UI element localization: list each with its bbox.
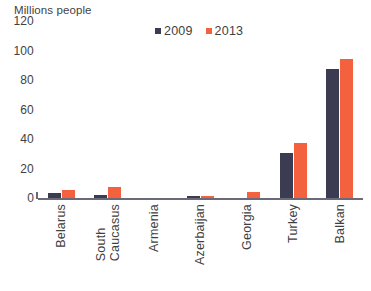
x-tick-label: Balkan [333, 204, 347, 243]
y-tick-label: 40 [2, 133, 34, 145]
x-tick-label: Azerbaijan [193, 204, 207, 265]
bar[interactable] [294, 143, 307, 199]
bar[interactable] [326, 69, 339, 199]
x-label-cell: SouthCaucasus [84, 202, 130, 291]
x-tick-label: SouthCaucasus [94, 204, 122, 261]
bar-group [177, 22, 223, 199]
bar[interactable] [340, 59, 353, 199]
x-label-cell: Balkan [317, 202, 363, 291]
x-tick-label-line: Caucasus [108, 204, 122, 261]
y-axis-origin-tick [36, 192, 38, 199]
y-tick-label: 60 [2, 104, 34, 116]
x-label-cell: Turkey [270, 202, 316, 291]
x-label-cell: Georgia [224, 202, 270, 291]
x-axis-labels: BelarusSouthCaucasusArmeniaAzerbaijanGeo… [38, 202, 363, 291]
x-label-cell: Armenia [131, 202, 177, 291]
x-tick-label: Georgia [240, 204, 254, 250]
bar[interactable] [280, 153, 293, 199]
y-tick-label: 120 [2, 15, 34, 27]
bar-group [38, 22, 84, 199]
x-tick-label: Armenia [147, 204, 161, 252]
y-tick-label: 100 [2, 45, 34, 57]
x-axis-line [38, 198, 363, 200]
x-tick-label: Belarus [54, 204, 68, 248]
bar-group [224, 22, 270, 199]
x-label-cell: Belarus [38, 202, 84, 291]
y-axis-labels: 020406080100120 [0, 0, 34, 220]
y-tick-label: 80 [2, 74, 34, 86]
bar-group [270, 22, 316, 199]
bar-group [317, 22, 363, 199]
y-tick-label: 20 [2, 163, 34, 175]
bar-groups [38, 22, 363, 199]
x-tick-label: Turkey [286, 204, 300, 243]
x-label-cell: Azerbaijan [177, 202, 223, 291]
bar-group [131, 22, 177, 199]
x-tick-label-line: South [94, 228, 108, 262]
bar-group [84, 22, 130, 199]
bar-chart: Millions people 2009 2013 02040608010012… [0, 0, 371, 291]
y-tick-label: 0 [2, 192, 34, 204]
